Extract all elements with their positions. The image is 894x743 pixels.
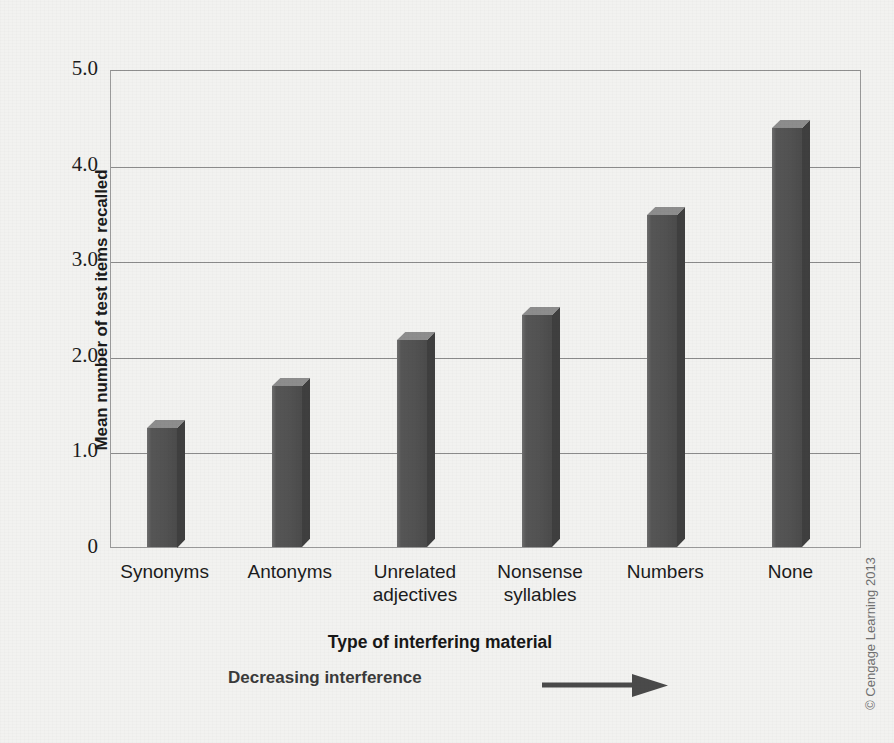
bar-side-face	[177, 419, 185, 547]
y-axis-tick-label: 5.0	[8, 58, 98, 79]
x-axis-title: Type of interfering material	[0, 632, 880, 653]
x-axis-category-label: None	[710, 560, 870, 583]
bar-front-face	[397, 340, 427, 547]
bar-side-face	[802, 120, 810, 547]
y-axis-tick-label: 3.0	[8, 249, 98, 270]
bar-side-face	[677, 207, 685, 547]
bar-chart-figure: Mean number of test items recalled 01.02…	[0, 0, 894, 743]
gridline	[111, 262, 860, 263]
credit-line: © Cengage Learning 2013	[863, 536, 878, 732]
bar-side-face	[552, 306, 560, 547]
y-axis-tick-label: 4.0	[8, 154, 98, 175]
decreasing-interference-label: Decreasing interference	[228, 668, 422, 688]
bar-front-face	[522, 315, 552, 547]
bar	[272, 386, 310, 547]
gridline	[111, 453, 860, 454]
bar-side-face	[302, 378, 310, 547]
bar	[147, 428, 185, 548]
gridline	[111, 358, 860, 359]
bar-front-face	[647, 215, 677, 547]
bar-front-face	[147, 428, 177, 548]
category-label-line: None	[710, 560, 870, 583]
bar-front-face	[772, 128, 802, 547]
bar	[772, 128, 810, 547]
bar-side-face	[427, 331, 435, 547]
bar	[397, 340, 435, 547]
category-label-line: syllables	[460, 583, 620, 606]
bar	[647, 215, 685, 547]
bar-front-face	[272, 386, 302, 547]
y-axis-tick-label: 0	[8, 536, 98, 557]
bar	[522, 315, 560, 547]
y-axis-tick-label: 2.0	[8, 345, 98, 366]
gridline	[111, 167, 860, 168]
plot-area	[110, 70, 861, 548]
y-axis-tick-label: 1.0	[8, 440, 98, 461]
right-arrow-icon	[540, 672, 670, 698]
